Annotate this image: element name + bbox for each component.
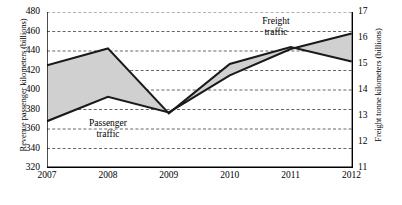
x-axis-tick: 2009 <box>149 171 189 181</box>
x-axis-tick: 2008 <box>88 171 128 181</box>
annotation-freight-line1: Freight <box>243 16 309 27</box>
x-axis-tick: 2010 <box>210 171 250 181</box>
annotation-passenger-line2: traffic <box>68 129 148 140</box>
x-axis-tick: 2012 <box>332 171 372 181</box>
annotation-passenger-traffic: Passenger traffic <box>68 118 148 140</box>
x-axis-tick: 2011 <box>271 171 311 181</box>
chart-figure: Revenue passenger kilometers (billions) … <box>0 0 402 205</box>
annotation-freight-traffic: Freight traffic <box>243 16 309 38</box>
annotation-passenger-line1: Passenger <box>68 118 148 129</box>
annotation-freight-line2: traffic <box>243 27 309 38</box>
x-axis-tick: 2007 <box>27 171 67 181</box>
between-series-fill <box>47 33 352 121</box>
